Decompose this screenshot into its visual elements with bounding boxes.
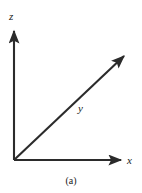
- x-axis-label: x: [127, 155, 132, 166]
- y-axis-label: y: [78, 103, 83, 114]
- coordinate-axes-figure: z y x (a): [0, 0, 142, 193]
- y-axis-line: [14, 56, 124, 160]
- z-axis-label: z: [9, 11, 13, 22]
- figure-caption: (a): [0, 175, 142, 187]
- axes-drawing: [0, 0, 142, 193]
